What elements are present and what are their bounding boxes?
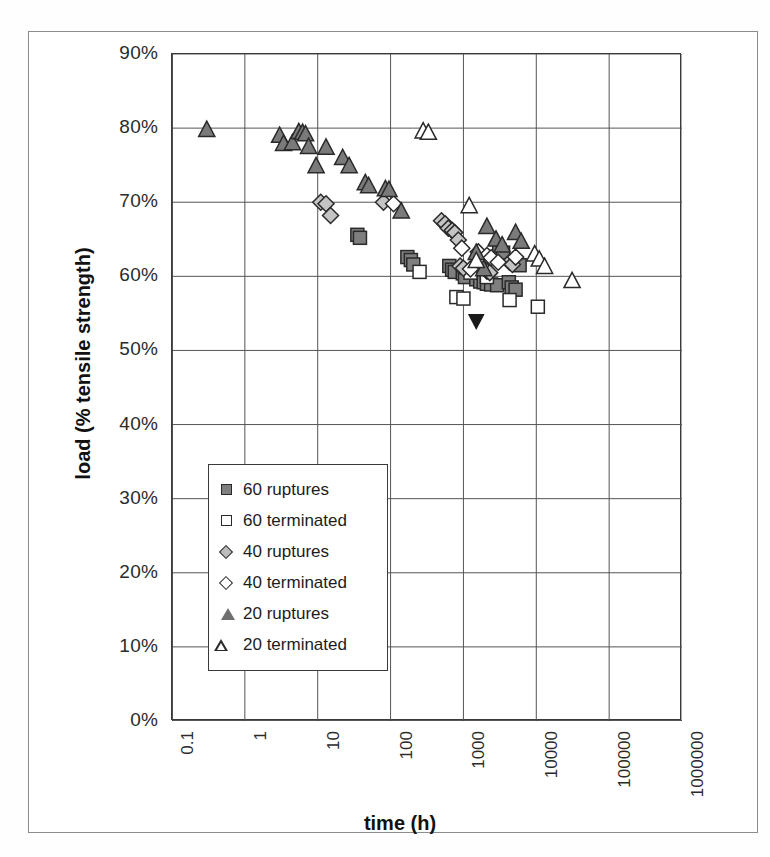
data-point <box>308 157 324 172</box>
y-tick-label: 60% <box>98 264 158 286</box>
y-axis-title: load (% tensile strength) <box>72 199 95 529</box>
data-point <box>199 121 215 136</box>
y-tick-label: 50% <box>98 338 158 360</box>
legend-label: 60 terminated <box>243 511 347 531</box>
legend-marker-square-open-icon <box>221 515 243 526</box>
data-point <box>503 294 516 307</box>
legend-item: 40 ruptures <box>221 536 377 567</box>
legend-label: 20 terminated <box>243 635 347 655</box>
y-tick-label: 0% <box>98 709 158 731</box>
x-tick-label: 1 <box>251 731 271 740</box>
data-point <box>531 300 544 313</box>
y-tick-label: 40% <box>98 413 158 435</box>
legend-item: 40 terminated <box>221 567 377 598</box>
legend-item: 20 terminated <box>221 629 377 660</box>
y-tick-label: 80% <box>98 116 158 138</box>
x-axis-title: time (h) <box>300 812 500 835</box>
legend-item: 60 ruptures <box>221 474 377 505</box>
y-axis-tick-labels: 0%10%20%30%40%50%60%70%80%90% <box>96 0 158 857</box>
legend-marker-square-filled-icon <box>221 484 243 495</box>
data-point <box>318 139 334 154</box>
y-tick-label: 10% <box>98 635 158 657</box>
data-point <box>457 292 470 305</box>
legend-label: 40 ruptures <box>243 542 329 562</box>
y-tick-label: 20% <box>98 561 158 583</box>
legend-marker-diamond-filled-icon <box>221 547 243 557</box>
legend-label: 40 terminated <box>243 573 347 593</box>
x-tick-label: 100000 <box>615 731 635 788</box>
y-tick-label: 90% <box>98 42 158 64</box>
legend-marker-triangle-filled-icon <box>221 608 243 620</box>
data-point <box>353 231 366 244</box>
y-axis-title-wrap: load (% tensile strength) <box>60 0 61 1</box>
data-markers <box>199 121 580 328</box>
x-tick-label: 100 <box>397 731 417 759</box>
data-point <box>479 218 495 233</box>
y-tick-label: 70% <box>98 190 158 212</box>
chart-legend: 60 ruptures60 terminated40 ruptures40 te… <box>208 464 388 671</box>
legend-label: 20 ruptures <box>243 604 329 624</box>
data-point <box>413 265 426 278</box>
x-tick-label: 1000 <box>469 731 489 769</box>
x-tick-label: 10 <box>324 731 344 750</box>
scatter-chart: 0%10%20%30%40%50%60%70%80%90% 0.11101001… <box>0 0 770 857</box>
y-tick-label: 30% <box>98 487 158 509</box>
legend-item: 20 ruptures <box>221 598 377 629</box>
scanned-page: 0%10%20%30%40%50%60%70%80%90% 0.11101001… <box>0 0 770 857</box>
x-tick-label: 10000 <box>542 731 562 778</box>
data-point <box>564 272 580 287</box>
legend-item: 60 terminated <box>221 505 377 536</box>
data-point <box>469 315 483 329</box>
x-tick-label: 1000000 <box>688 731 708 797</box>
legend-marker-diamond-open-icon <box>221 578 243 588</box>
x-tick-label: 0.1 <box>178 731 198 755</box>
legend-label: 60 ruptures <box>243 480 329 500</box>
